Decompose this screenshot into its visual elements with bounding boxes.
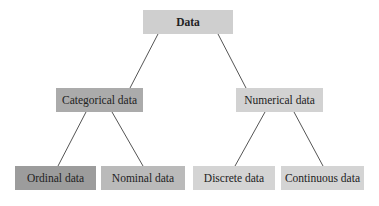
- edge-numerical-discrete: [235, 112, 265, 166]
- node-numerical-data: Numerical data: [236, 88, 323, 112]
- node-nominal-data: Nominal data: [101, 166, 185, 190]
- node-label: Numerical data: [244, 94, 315, 106]
- edge-numerical-continuous: [294, 112, 323, 166]
- node-data: Data: [143, 10, 233, 34]
- node-continuous-data: Continuous data: [281, 166, 364, 190]
- node-label: Nominal data: [112, 172, 174, 184]
- node-categorical-data: Categorical data: [56, 88, 143, 112]
- edge-data-categorical: [130, 34, 158, 88]
- node-discrete-data: Discrete data: [193, 166, 275, 190]
- edge-data-numerical: [218, 34, 246, 88]
- node-label: Categorical data: [62, 94, 137, 106]
- node-label: Continuous data: [285, 172, 360, 184]
- edge-categorical-nominal: [112, 112, 143, 166]
- node-label: Ordinal data: [27, 172, 84, 184]
- node-label: Data: [176, 16, 200, 28]
- node-ordinal-data: Ordinal data: [15, 166, 96, 190]
- node-label: Discrete data: [204, 172, 264, 184]
- edge-categorical-ordinal: [58, 112, 86, 166]
